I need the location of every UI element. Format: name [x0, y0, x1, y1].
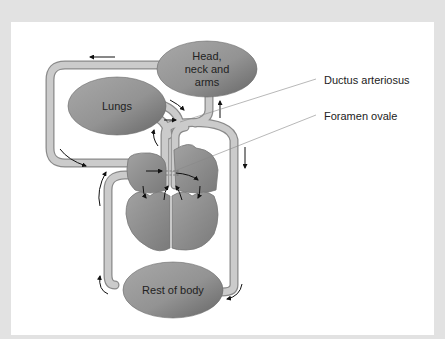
- right-ventricle: [126, 192, 170, 251]
- ductus-arteriosus-label: Ductus arteriosus: [324, 74, 410, 86]
- fetal-circulation-diagram: Head, neck and arms Lungs Rest of body D…: [0, 0, 445, 339]
- head-label-line2: neck and: [185, 63, 230, 75]
- foramen-ovale-label: Foramen ovale: [324, 110, 397, 122]
- rest-of-body-label: Rest of body: [142, 284, 204, 296]
- arrow-lung-up: [154, 130, 159, 146]
- organ-rest-of-body: Rest of body: [123, 262, 223, 318]
- organ-lungs: Lungs: [68, 77, 166, 135]
- right-atrium: [127, 153, 166, 193]
- left-ventricle: [172, 192, 218, 250]
- head-label-line3: arms: [195, 76, 220, 88]
- lungs-label: Lungs: [102, 100, 132, 112]
- organ-head: Head, neck and arms: [157, 41, 257, 97]
- head-label-line1: Head,: [192, 50, 221, 62]
